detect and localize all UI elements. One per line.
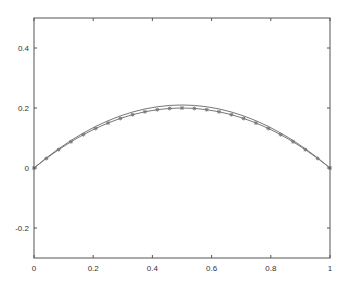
series-line-1	[34, 108, 330, 168]
chart-canvas: 00.20.40.60.81 -0.200.20.4	[0, 0, 349, 286]
y-axis: -0.200.20.4	[15, 44, 330, 233]
x-tick-label: 0	[32, 264, 37, 273]
data-point-marker	[291, 140, 295, 144]
data-point-marker	[254, 121, 258, 125]
data-point-marker	[217, 110, 221, 114]
x-tick-label: 0.4	[147, 264, 159, 273]
data-point-marker	[316, 156, 320, 160]
data-point-marker	[205, 108, 209, 112]
data-point-marker	[94, 126, 98, 130]
plot-area	[32, 105, 332, 170]
data-point-marker	[192, 106, 196, 110]
data-point-marker	[143, 110, 147, 114]
data-point-marker	[303, 148, 307, 152]
data-point-marker	[180, 106, 184, 110]
x-tick-label: 0.2	[88, 264, 100, 273]
data-point-marker	[106, 121, 110, 125]
data-point-marker	[131, 113, 135, 117]
x-axis: 00.20.40.60.81	[32, 18, 333, 273]
x-tick-label: 0.8	[265, 264, 277, 273]
data-point-marker	[81, 133, 85, 137]
data-point-marker	[266, 126, 270, 130]
data-point-marker	[168, 106, 172, 110]
data-point-marker	[242, 116, 246, 120]
data-point-marker	[118, 116, 122, 120]
y-tick-label: 0.2	[18, 104, 30, 113]
x-tick-label: 1	[328, 264, 333, 273]
data-point-marker	[155, 108, 159, 112]
data-point-marker	[44, 156, 48, 160]
x-tick-label: 0.6	[206, 264, 218, 273]
series-line-0	[34, 105, 330, 168]
data-point-marker	[57, 148, 61, 152]
y-tick-label: 0	[25, 164, 30, 173]
data-point-marker	[279, 133, 283, 137]
data-point-marker	[69, 140, 73, 144]
y-tick-label: 0.4	[18, 44, 30, 53]
y-tick-label: -0.2	[15, 224, 29, 233]
data-point-marker	[229, 113, 233, 117]
